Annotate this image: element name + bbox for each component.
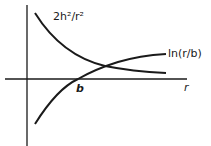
label-x-axis-r: r <box>184 82 189 93</box>
label-b: b <box>76 83 84 94</box>
label-ln-r-over-b: ln(r/b) <box>168 48 202 59</box>
diagram-canvas <box>0 0 211 146</box>
label-2h2-over-r2: 2h²/r² <box>53 11 84 22</box>
